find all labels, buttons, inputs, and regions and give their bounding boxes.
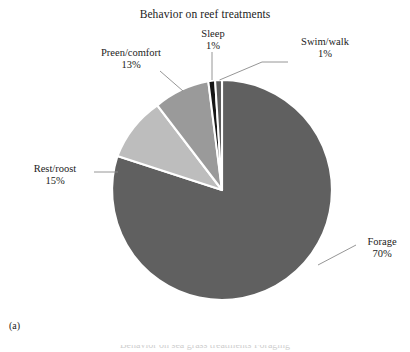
- slice-label-preen-comfort-name: Preen/comfort: [88, 47, 174, 59]
- leader-line-forage: [318, 245, 356, 265]
- slice-label-swim-walk-percent: 1%: [289, 48, 361, 60]
- slice-label-preen-comfort-percent: 13%: [88, 59, 174, 71]
- slice-label-forage-name: Forage: [357, 236, 407, 248]
- leader-line-preen-comfort: [160, 71, 183, 91]
- slice-label-forage: Forage 70%: [357, 236, 407, 260]
- leader-line-swim-walk: [220, 62, 289, 80]
- pie-chart-figure: Behavior on reef treatments Sleep 1% Swi…: [0, 0, 410, 352]
- slice-label-sleep: Sleep 1%: [183, 28, 243, 52]
- cropped-caption-text: Behavior on sea grass treatments Foragin…: [0, 345, 410, 351]
- slice-label-rest-roost: Rest/roost 15%: [18, 163, 92, 187]
- cropped-caption-strip: Behavior on sea grass treatments Foragin…: [0, 345, 410, 352]
- slice-label-sleep-name: Sleep: [183, 28, 243, 40]
- slice-label-preen-comfort: Preen/comfort 13%: [88, 47, 174, 71]
- slice-label-rest-roost-percent: 15%: [18, 175, 92, 187]
- slice-label-forage-percent: 70%: [357, 248, 407, 260]
- slice-label-swim-walk-name: Swim/walk: [289, 36, 361, 48]
- slice-label-swim-walk: Swim/walk 1%: [289, 36, 361, 60]
- panel-letter: (a): [9, 320, 20, 332]
- slice-label-sleep-percent: 1%: [183, 40, 243, 52]
- slice-label-rest-roost-name: Rest/roost: [18, 163, 92, 175]
